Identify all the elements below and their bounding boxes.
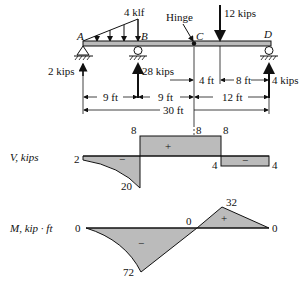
pin-support-icon [74, 46, 93, 60]
dim-12ft: 12 ft [222, 91, 242, 103]
shear-label-d: 8 [223, 124, 229, 136]
beam [83, 41, 271, 46]
distributed-load [83, 19, 138, 41]
point-c-label: C [196, 30, 204, 42]
shear-label-min: 20 [121, 180, 133, 192]
shear-label-b: 8 [131, 124, 137, 136]
shear-sign-1: − [119, 153, 125, 165]
load-label: 4 klf [124, 6, 145, 18]
moment-label-max: 32 [226, 196, 237, 208]
reaction-a-label: 2 kips [48, 65, 75, 77]
shear-sign-2: + [165, 140, 171, 152]
shear-label-drop: 4 [212, 159, 218, 171]
shear-label-start: 2 [74, 153, 80, 165]
dim-8ft: 8 ft [236, 74, 251, 86]
hinge-icon [192, 41, 196, 45]
moment-label-min: 72 [123, 266, 134, 278]
shear-sign-3: − [242, 154, 248, 166]
moment-diagram [86, 207, 269, 272]
dim-9ft-2: 9 ft [158, 91, 173, 103]
point-d-label: D [263, 28, 272, 40]
point-b-label: B [141, 30, 148, 42]
moment-label-start: 0 [75, 222, 81, 234]
hinge-label: Hinge [166, 11, 193, 23]
beam-diagram: 4 klf A B C D Hinge 12 kips 2 kips 28 ki… [0, 0, 307, 289]
moment-axis-label: M, kip · ft [9, 222, 53, 234]
moment-label-c: 0 [186, 215, 192, 227]
moment-sign-1: − [138, 237, 144, 249]
roller-support-icon [260, 47, 278, 61]
shear-label-c: 8 [196, 124, 202, 136]
shear-label-end: 4 [272, 159, 278, 171]
point-load-label: 12 kips [224, 7, 256, 19]
roller-support-icon [129, 47, 147, 61]
dim-30ft: 30 ft [163, 104, 183, 116]
moment-sign-2: + [221, 212, 227, 224]
moment-label-end: 0 [272, 222, 278, 234]
reaction-d-label: 4 kips [272, 74, 299, 86]
reaction-b-label: 28 kips [142, 65, 174, 77]
dim-4ft: 4 ft [199, 74, 214, 86]
dim-9ft-1: 9 ft [103, 91, 118, 103]
shear-axis-label: V, kips [10, 151, 39, 163]
point-a-label: A [76, 30, 84, 42]
